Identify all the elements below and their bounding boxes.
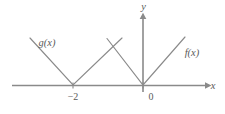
curve-label-f-of-x: f(x) — [185, 47, 200, 59]
y-axis-arrowhead — [140, 13, 147, 19]
x-tick-label-minus-2: −2 — [68, 91, 79, 102]
x-tick-label-zero: 0 — [149, 91, 154, 102]
y-axis-label: y — [140, 1, 146, 12]
curve-label-g-of-x: g(x) — [39, 37, 56, 49]
math-figure: x y −2 0 g(x) f(x) — [0, 0, 225, 114]
coordinate-plane-svg: x y −2 0 g(x) f(x) — [0, 0, 225, 114]
curve-f-of-x — [107, 37, 185, 85]
x-axis-label: x — [210, 80, 216, 91]
